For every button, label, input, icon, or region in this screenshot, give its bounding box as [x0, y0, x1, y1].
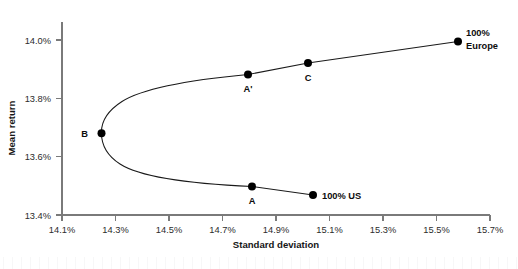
- point-label-europe-line2: Europe: [466, 41, 498, 51]
- y-tick-label-13-4: 13.4%: [25, 211, 51, 221]
- data-point-us: [309, 191, 317, 199]
- x-tick-label-15-3: 15.3%: [370, 225, 396, 235]
- efficient-frontier-chart: 14.0% 13.8% 13.6% 13.4% 14.1% 14.3% 14.5…: [0, 0, 518, 269]
- x-tick-label-14-9: 14.9%: [263, 225, 289, 235]
- x-tick-label-14-1: 14.1%: [49, 225, 75, 235]
- y-axis-title: Mean return: [6, 100, 17, 155]
- y-tick-label-14-0: 14.0%: [25, 36, 51, 46]
- y-tick-label-13-8: 13.8%: [25, 94, 51, 104]
- data-point-europe: [454, 38, 462, 46]
- chart-canvas: 14.0% 13.8% 13.6% 13.4% 14.1% 14.3% 14.5…: [0, 0, 518, 269]
- point-label-b: B: [81, 129, 88, 139]
- point-label-a-prime: A': [244, 84, 253, 94]
- frontier-lower-branch: [102, 133, 314, 195]
- x-axis-ticks: [62, 215, 490, 221]
- data-point-b: [98, 129, 106, 137]
- data-point-a-prime: [244, 71, 252, 79]
- data-point-a: [248, 183, 256, 191]
- point-label-europe-line1: 100%: [466, 28, 491, 38]
- point-label-us: 100% US: [322, 191, 361, 201]
- point-label-c: C: [305, 73, 312, 83]
- x-tick-label-14-7: 14.7%: [209, 225, 235, 235]
- x-tick-label-14-5: 14.5%: [156, 225, 182, 235]
- x-tick-label-14-3: 14.3%: [102, 225, 128, 235]
- x-tick-label-15-1: 15.1%: [316, 225, 342, 235]
- y-tick-label-13-6: 13.6%: [25, 152, 51, 162]
- frontier-upper-branch: [101, 42, 458, 134]
- y-axis-ticks: [56, 40, 62, 215]
- x-tick-label-15-5: 15.5%: [423, 225, 449, 235]
- point-label-a: A: [249, 196, 256, 206]
- data-point-c: [304, 59, 312, 67]
- x-tick-label-15-7: 15.7%: [477, 225, 503, 235]
- x-axis-title: Standard deviation: [233, 239, 319, 250]
